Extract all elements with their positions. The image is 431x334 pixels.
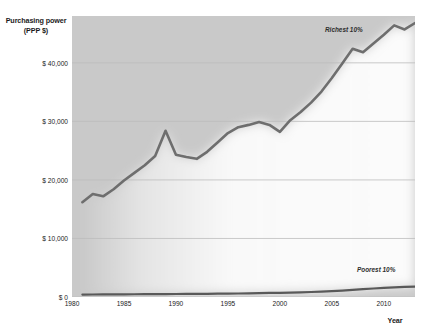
x-tick-label: 1995: [221, 300, 236, 307]
y-axis-tick-labels: $ 0$ 10,000$ 20,000$ 30,000$ 40,000: [0, 0, 68, 334]
x-tick-label: 1990: [169, 300, 184, 307]
series-label-poorest: Poorest 10%: [357, 266, 395, 273]
plot-area: Richest 10% Poorest 10%: [72, 16, 415, 297]
series-label-richest: Richest 10%: [325, 26, 363, 33]
y-tick-label: $ 10,000: [4, 235, 68, 242]
y-tick-label: $ 30,000: [4, 118, 68, 125]
x-tick-label: 1980: [65, 300, 80, 307]
x-tick-label: 1985: [117, 300, 132, 307]
gap-wedge-shape: [82, 23, 415, 295]
chart-screenshot: Purchasing power (PPP $) $ 0$ 10,000$ 20…: [0, 0, 431, 334]
y-tick-label: $ 20,000: [4, 176, 68, 183]
y-tick-label: $ 0: [4, 294, 68, 301]
x-tick-label: 2005: [325, 300, 340, 307]
y-tick-label: $ 40,000: [4, 59, 68, 66]
x-tick-label: 2000: [273, 300, 288, 307]
x-tick-label: 2010: [376, 300, 391, 307]
chart-canvas: [72, 16, 415, 297]
x-axis-title: Year: [375, 316, 415, 326]
inequality-gap-wedge: [82, 23, 415, 295]
